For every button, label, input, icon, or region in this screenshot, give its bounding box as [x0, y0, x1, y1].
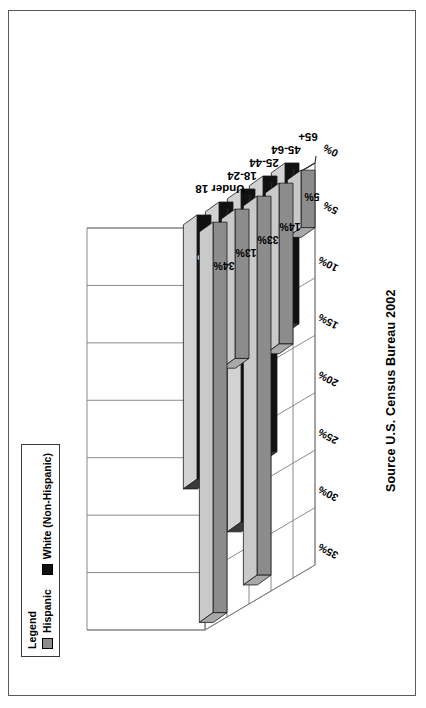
legend-item-white-non-hispanic: White (Non-Hispanic) — [41, 453, 54, 575]
value-tick-label: 15% — [315, 311, 340, 332]
category-label: 18-24 — [227, 170, 257, 182]
bar-value-label: 34% — [213, 260, 235, 272]
bar-value-label: 14% — [279, 221, 301, 233]
category-label: 65+ — [298, 131, 318, 143]
chart-legend: Legend Hispanic White (Non-Hispanic) — [21, 444, 60, 657]
category-label: 45-64 — [271, 144, 301, 156]
bar-value-label: 5% — [304, 191, 320, 203]
value-tick-label: 20% — [315, 369, 340, 390]
legend-label-hispanic: Hispanic — [41, 589, 54, 633]
category-label: Under 18 — [195, 183, 245, 195]
value-tick-label: 35% — [315, 541, 340, 562]
plot-area: 14%5%24%14%29%33%9%13%23%34%0%5%10%15%20… — [65, 95, 365, 655]
bar-value-label: 33% — [257, 234, 279, 246]
legend-title: Legend — [26, 453, 39, 649]
rotated-figure-wrapper: Legend Hispanic White (Non-Hispanic) 14%… — [9, 11, 417, 697]
legend-swatch-hispanic — [42, 638, 53, 649]
bar-value-label: 13% — [235, 247, 257, 259]
legend-label-white-non-hispanic: White (Non-Hispanic) — [41, 453, 54, 559]
value-tick-label: 25% — [315, 426, 340, 447]
bar-chart-3d: 14%5%24%14%29%33%9%13%23%34%0%5%10%15%20… — [65, 95, 365, 655]
value-tick-label: 30% — [315, 484, 340, 505]
category-label: 25-44 — [249, 157, 279, 169]
bar-under18-hispanic — [199, 222, 227, 622]
chart-canvas: Legend Hispanic White (Non-Hispanic) 14%… — [9, 11, 417, 697]
scanned-page: Legend Hispanic White (Non-Hispanic) 14%… — [0, 0, 426, 708]
source-note: Source U.S. Census Bureau 2002 — [384, 289, 398, 492]
legend-swatch-white-non-hispanic — [42, 564, 53, 575]
value-tick-label: 10% — [315, 254, 340, 275]
legend-item-hispanic: Hispanic — [41, 589, 54, 649]
value-tick-label: 0% — [320, 142, 340, 160]
value-axis-tick-labels: 0%5%10%15%20%25%30%35% — [315, 142, 340, 562]
value-tick-label: 5% — [320, 199, 340, 217]
